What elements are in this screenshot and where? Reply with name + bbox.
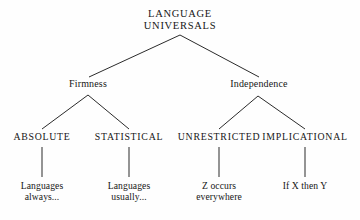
edge-independence-to-unrestricted bbox=[219, 96, 258, 129]
node-root: LANGUAGE UNIVERSALS bbox=[120, 8, 240, 33]
node-firmness-label: Firmness bbox=[69, 78, 107, 89]
node-unrestricted: UNRESTRICTED bbox=[172, 131, 266, 143]
leaf-statistical-line2: usually... bbox=[89, 191, 169, 202]
node-absolute: ABSOLUTE bbox=[2, 131, 82, 143]
leaf-implicational-example: If X then Y bbox=[263, 180, 347, 191]
node-root-line2: UNIVERSALS bbox=[120, 20, 240, 32]
node-absolute-label: ABSOLUTE bbox=[13, 131, 70, 142]
node-statistical-label: STATISTICAL bbox=[95, 131, 163, 142]
node-independence: Independence bbox=[204, 78, 314, 90]
leaf-implicational-line1: If X then Y bbox=[283, 180, 328, 191]
node-implicational-label: IMPLICATIONAL bbox=[262, 131, 347, 142]
leaf-unrestricted-example: Z occurs everywhere bbox=[177, 180, 261, 203]
language-universals-tree: LANGUAGE UNIVERSALS Firmness Independenc… bbox=[0, 0, 360, 220]
node-statistical: STATISTICAL bbox=[84, 131, 174, 143]
node-firmness: Firmness bbox=[38, 78, 138, 90]
edge-firmness-to-absolute bbox=[42, 95, 88, 129]
leaf-absolute-line1: Languages bbox=[21, 180, 63, 191]
leaf-unrestricted-line1: Z occurs bbox=[202, 180, 236, 191]
edge-root-to-firmness bbox=[89, 35, 180, 77]
leaf-unrestricted-line2: everywhere bbox=[177, 191, 261, 202]
leaf-absolute-line2: always... bbox=[2, 191, 82, 202]
leaf-statistical-line1: Languages bbox=[108, 180, 150, 191]
node-implicational: IMPLICATIONAL bbox=[257, 131, 353, 143]
leaf-absolute-example: Languages always... bbox=[2, 180, 82, 203]
node-root-line1: LANGUAGE bbox=[148, 8, 212, 19]
edge-independence-to-implicational bbox=[258, 96, 305, 129]
leaf-statistical-example: Languages usually... bbox=[89, 180, 169, 203]
edge-root-to-independence bbox=[180, 35, 259, 77]
edge-firmness-to-statistical bbox=[88, 95, 129, 129]
node-unrestricted-label: UNRESTRICTED bbox=[178, 131, 260, 142]
node-independence-label: Independence bbox=[230, 78, 287, 89]
